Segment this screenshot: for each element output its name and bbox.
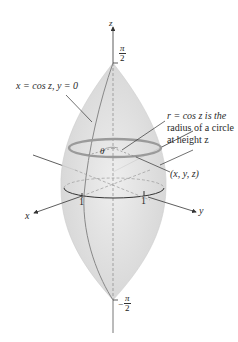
point-leader-ext [160,150,193,165]
x-axis-label: x [25,210,29,221]
radius-note-line3: at height z [167,134,209,145]
theta-label: θ [100,146,104,157]
x-tick-label: 1 [79,196,84,207]
point-label: (x, y, z) [170,168,199,179]
curve-label: x = cos z, y = 0 [16,80,78,91]
y-tick-label: 1 [141,195,146,206]
radius-note-line1: r = cos z is the [167,110,226,121]
z-axis-label: z [109,18,113,29]
z-bottom-tick-label: π 2 [124,294,131,313]
radius-note-line2: radius of a circle [167,122,234,133]
y-axis-label: y [199,205,203,216]
z-bottom-tick-sign: − [118,299,123,310]
z-bottom-tick-den: 2 [124,304,131,313]
z-top-tick-label: π 2 [119,44,126,63]
z-top-tick-den: 2 [119,54,126,63]
